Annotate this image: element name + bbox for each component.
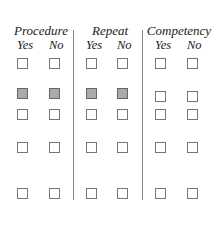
checkbox[interactable]: [155, 188, 166, 199]
checkbox[interactable]: [155, 142, 166, 153]
checkbox[interactable]: [117, 188, 128, 199]
checkbox[interactable]: [117, 88, 128, 99]
checkbox[interactable]: [86, 88, 97, 99]
competency-no-label: No: [187, 38, 202, 53]
competency-yes-label: Yes: [155, 38, 171, 53]
procedure-yes-label: Yes: [17, 38, 33, 53]
checkbox[interactable]: [17, 88, 28, 99]
checkbox[interactable]: [86, 109, 97, 120]
group-competency-title: Competency: [144, 23, 214, 39]
checkbox[interactable]: [187, 188, 198, 199]
repeat-no-label: No: [117, 38, 132, 53]
checkbox[interactable]: [187, 58, 198, 69]
divider-2: [142, 30, 143, 200]
divider-1: [73, 30, 74, 200]
checkbox[interactable]: [187, 109, 198, 120]
checkbox[interactable]: [155, 109, 166, 120]
checkbox[interactable]: [49, 109, 60, 120]
checkbox[interactable]: [49, 142, 60, 153]
checkbox[interactable]: [49, 88, 60, 99]
checkbox[interactable]: [49, 188, 60, 199]
repeat-yes-label: Yes: [86, 38, 102, 53]
group-repeat-title: Repeat: [75, 23, 145, 39]
checkbox[interactable]: [17, 58, 28, 69]
procedure-no-label: No: [49, 38, 64, 53]
checkbox[interactable]: [117, 58, 128, 69]
checkbox[interactable]: [17, 188, 28, 199]
group-procedure-title: Procedure: [6, 23, 76, 39]
checkbox[interactable]: [117, 142, 128, 153]
checkbox[interactable]: [86, 188, 97, 199]
checkbox[interactable]: [86, 58, 97, 69]
checkbox[interactable]: [187, 142, 198, 153]
checkbox[interactable]: [155, 58, 166, 69]
checkbox[interactable]: [86, 142, 97, 153]
checkbox[interactable]: [117, 109, 128, 120]
checkbox[interactable]: [17, 142, 28, 153]
checkbox[interactable]: [187, 91, 198, 102]
checkbox[interactable]: [17, 109, 28, 120]
checkbox[interactable]: [155, 91, 166, 102]
checkbox[interactable]: [49, 58, 60, 69]
